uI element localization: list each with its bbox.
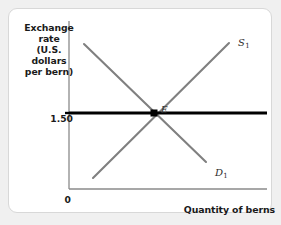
- supply-curve-label: S1: [238, 37, 249, 48]
- equilibrium-point-marker: [151, 110, 158, 117]
- origin-label: 0: [53, 195, 71, 206]
- y-axis-title: Exchange rate (U.S. dollars per bern): [21, 23, 77, 78]
- y-axis-title-line-5: per bern): [21, 67, 77, 78]
- supply-curve-label-text: S: [238, 37, 245, 48]
- supply-curve-label-subscript: 1: [245, 42, 249, 50]
- figure-root: Exchange rate (U.S. dollars per bern) 1.…: [0, 0, 281, 225]
- x-axis-title: Quantity of berns: [109, 204, 275, 215]
- equilibrium-point-label: E: [161, 105, 168, 115]
- demand-curve-label-text: D: [215, 167, 223, 178]
- demand-curve: [84, 44, 206, 162]
- chart-card: Exchange rate (U.S. dollars per bern) 1.…: [8, 8, 272, 213]
- demand-curve-label-subscript: 1: [223, 172, 227, 180]
- y-axis-tick-label-1-50: 1.50: [23, 114, 73, 125]
- demand-curve-label: D1: [215, 167, 228, 178]
